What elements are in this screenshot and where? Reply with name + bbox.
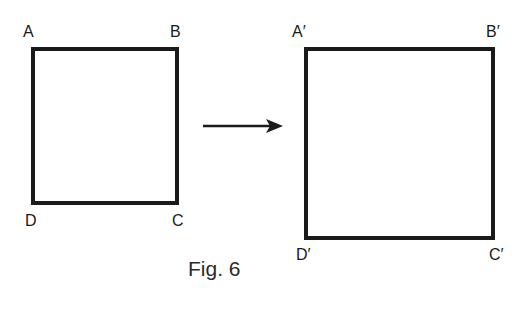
vertex-label-c: C xyxy=(172,213,184,229)
vertex-label-a: A xyxy=(23,24,34,40)
vertex-label-b: B xyxy=(170,24,181,40)
vertex-label-d: D xyxy=(25,213,37,229)
original-rectangle xyxy=(31,47,179,205)
vertex-label-d-prime: D′ xyxy=(296,247,311,263)
vertex-label-a-prime: A′ xyxy=(292,24,306,40)
vertex-label-b-prime: B′ xyxy=(486,24,500,40)
vertex-label-c-prime: C′ xyxy=(489,247,504,263)
right-arrow-icon xyxy=(200,116,290,136)
transformed-square xyxy=(304,47,495,240)
figure-caption: Fig. 6 xyxy=(188,258,241,280)
